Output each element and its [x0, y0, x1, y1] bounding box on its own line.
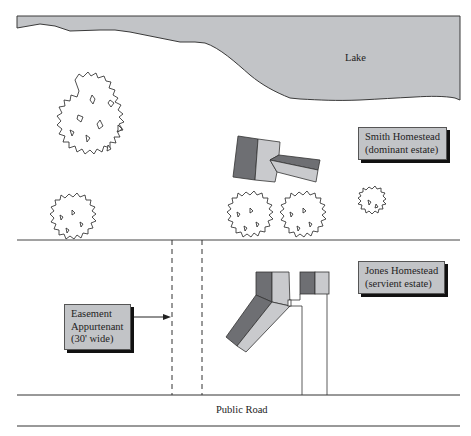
- easement-callout: Easement Appurtenant (30' wide): [64, 304, 131, 350]
- smith-callout-line2: (dominant estate): [365, 144, 440, 157]
- tree-center-2-icon: [280, 191, 326, 237]
- jones-house: [226, 272, 290, 352]
- tree-center-1-icon: [227, 191, 273, 237]
- smith-callout-line1: Smith Homestead: [365, 131, 440, 144]
- jones-homestead-callout: Jones Homestead (servient estate): [358, 261, 445, 294]
- easement-callout-line1: Easement: [71, 308, 124, 321]
- jones-callout-line1: Jones Homestead: [365, 265, 438, 278]
- easement-callout-line3: (30' wide): [71, 333, 124, 346]
- site-plan-canvas: [0, 0, 471, 436]
- jones-callout-line2: (servient estate): [365, 278, 438, 291]
- public-road-label: Public Road: [216, 404, 268, 417]
- smith-homestead-callout: Smith Homestead (dominant estate): [358, 127, 447, 160]
- easement-callout-line2: Appurtenant: [71, 321, 124, 334]
- large-tree-icon: [57, 72, 124, 154]
- jones-garage: [300, 272, 329, 294]
- tree-left-icon: [50, 193, 96, 239]
- small-tree-icon: [358, 186, 386, 214]
- driveway: [288, 294, 327, 395]
- lake-label: Lake: [345, 52, 366, 65]
- smith-house: [233, 136, 320, 182]
- arrow-head-icon: [163, 314, 171, 320]
